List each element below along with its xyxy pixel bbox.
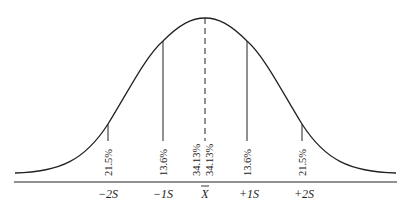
x-label-minus-1s: −1S <box>153 187 173 201</box>
x-label-plus-1s: +1S <box>239 187 259 201</box>
percent-label-6: 21.5% <box>297 149 308 176</box>
percent-label-1: 21.5% <box>103 149 114 176</box>
x-label-mean: X <box>200 187 209 201</box>
normal-distribution-diagram: 21.5% 13.6% 34.13% 34.13% 13.6% 21.5% −2… <box>0 0 409 208</box>
percent-label-4: 34.13% <box>204 143 215 176</box>
diagram-canvas: 21.5% 13.6% 34.13% 34.13% 13.6% 21.5% −2… <box>0 0 409 208</box>
percent-label-3: 34.13% <box>191 143 202 176</box>
percent-label-2: 13.6% <box>158 149 169 176</box>
percent-label-5: 13.6% <box>242 149 253 176</box>
x-label-plus-2s: +2S <box>294 187 314 201</box>
x-label-minus-2s: −2S <box>98 187 118 201</box>
